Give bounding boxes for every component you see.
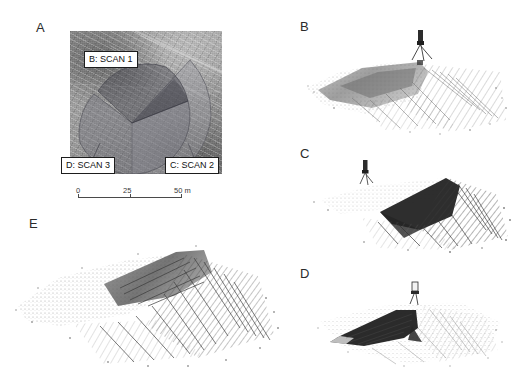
callout-scan-3[interactable]: D: SCAN 3 [61,157,115,174]
panel-c-point-cloud [300,152,518,258]
scale-bar-label-0: 0 [76,186,80,195]
callout-scan-1[interactable]: B: SCAN 1 [84,51,138,68]
scale-bar-label-50m: 50 m [174,186,191,195]
scanner-tripod-icon [412,30,432,65]
figure-root: A B: SCAN 1 D: SCAN 3 C: SCAN 2 [0,0,524,380]
callout-scan-2[interactable]: C: SCAN 2 [165,157,219,174]
scale-bar-label-25: 25 [123,186,131,195]
panel-letter-a: A [36,20,45,35]
panel-b-point-cloud [300,28,518,140]
scanner-tripod-icon [410,282,419,305]
scanner-tripod-icon [360,160,373,185]
panel-d-point-cloud [300,272,518,374]
panel-e-point-cloud [8,228,296,376]
